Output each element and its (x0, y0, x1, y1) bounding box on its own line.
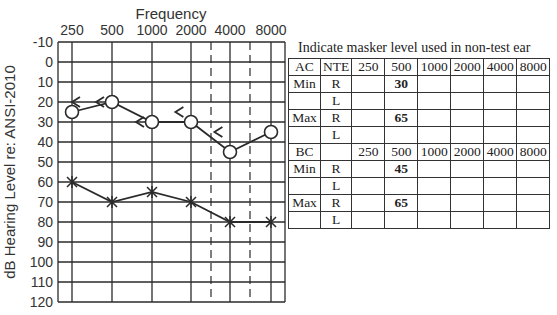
series-line (72, 102, 271, 152)
table-cell[interactable] (517, 76, 550, 93)
table-cell[interactable] (418, 195, 451, 212)
table-cell: L (321, 127, 352, 144)
circle-marker (265, 126, 278, 139)
table-header-cell: AC (289, 59, 321, 76)
table-cell[interactable] (418, 110, 451, 127)
table-cell (289, 212, 321, 229)
table-cell: L (321, 178, 352, 195)
bc-table-row: MinR45 (289, 161, 550, 178)
table-cell[interactable]: 30 (385, 76, 418, 93)
table-cell[interactable] (484, 212, 517, 229)
table-header-cell: 8000 (517, 144, 550, 161)
table-cell[interactable] (484, 195, 517, 212)
table-cell[interactable] (418, 212, 451, 229)
x-tick-label: 2000 (175, 22, 206, 38)
table-cell[interactable] (517, 127, 550, 144)
table-header-cell: 500 (385, 59, 418, 76)
table-cell: L (321, 93, 352, 110)
table-cell[interactable] (517, 178, 550, 195)
table-cell[interactable] (517, 110, 550, 127)
table-cell[interactable] (484, 161, 517, 178)
table-header-cell (321, 144, 352, 161)
table-cell[interactable] (484, 178, 517, 195)
table-cell[interactable] (352, 178, 385, 195)
table-cell[interactable] (385, 178, 418, 195)
bc-table-row: MaxR65 (289, 195, 550, 212)
table-cell[interactable] (484, 127, 517, 144)
ac-header-row: ACNTE2505001000200040008000 (289, 59, 550, 76)
table-cell[interactable] (451, 195, 484, 212)
table-cell[interactable] (451, 76, 484, 93)
audiogram-chart: -100102030405060708090100110120250500100… (0, 0, 290, 315)
x-tick-label: 1000 (136, 22, 167, 38)
table-cell: R (321, 161, 352, 178)
ac-table-row: MaxR65 (289, 110, 550, 127)
table-cell[interactable] (385, 93, 418, 110)
table-header-cell: 250 (352, 59, 385, 76)
table-cell[interactable] (385, 212, 418, 229)
y-tick-label: 30 (37, 114, 53, 130)
table-cell[interactable] (385, 127, 418, 144)
x-tick-label: 250 (60, 22, 84, 38)
table-header-cell: 500 (385, 144, 418, 161)
bc-unmasked-right-icon (175, 107, 183, 117)
x-tick-label: 8000 (255, 22, 286, 38)
y-tick-label: -10 (33, 34, 53, 50)
circle-marker (106, 96, 119, 109)
table-cell[interactable] (352, 127, 385, 144)
y-tick-label: 60 (37, 174, 53, 190)
circle-marker (146, 116, 159, 129)
y-tick-label: 70 (37, 194, 53, 210)
ac-table-row: MinR30 (289, 76, 550, 93)
x-axis-title: Frequency (136, 5, 207, 22)
table-cell[interactable] (352, 212, 385, 229)
ac-table-row: L (289, 93, 550, 110)
masking-table-panel: Indicate masker level used in non-test e… (288, 40, 550, 229)
table-cell[interactable] (451, 178, 484, 195)
y-tick-label: 100 (30, 254, 54, 270)
table-cell: R (321, 76, 352, 93)
circle-marker (66, 106, 79, 119)
y-tick-label: 20 (37, 94, 53, 110)
table-cell[interactable] (418, 178, 451, 195)
table-cell[interactable] (451, 161, 484, 178)
table-cell[interactable] (451, 93, 484, 110)
table-cell[interactable] (451, 127, 484, 144)
table-cell[interactable] (352, 93, 385, 110)
table-cell: R (321, 195, 352, 212)
table-cell (289, 93, 321, 110)
table-cell[interactable] (517, 212, 550, 229)
table-cell[interactable] (451, 110, 484, 127)
ac-table-row: L (289, 127, 550, 144)
table-cell[interactable]: 65 (385, 110, 418, 127)
bc-unmasked-right-icon (214, 127, 222, 137)
table-cell: Min (289, 161, 321, 178)
x-tick-label: 500 (100, 22, 124, 38)
table-cell[interactable] (517, 161, 550, 178)
table-cell[interactable] (418, 127, 451, 144)
table-cell: R (321, 110, 352, 127)
table-cell[interactable] (352, 110, 385, 127)
table-cell[interactable] (418, 161, 451, 178)
table-header-cell: 4000 (484, 144, 517, 161)
table-cell[interactable] (484, 76, 517, 93)
table-cell[interactable]: 45 (385, 161, 418, 178)
table-cell: L (321, 212, 352, 229)
table-cell[interactable] (517, 93, 550, 110)
table-cell[interactable] (352, 76, 385, 93)
y-tick-label: 80 (37, 214, 53, 230)
y-tick-label: 50 (37, 154, 53, 170)
table-cell[interactable] (517, 195, 550, 212)
bc-table-row: L (289, 212, 550, 229)
bc-header-row: BC2505001000200040008000 (289, 144, 550, 161)
table-cell[interactable] (418, 93, 451, 110)
table-cell[interactable] (352, 161, 385, 178)
table-cell[interactable]: 65 (385, 195, 418, 212)
masking-table: ACNTE2505001000200040008000MinR30LMaxR65… (288, 58, 550, 229)
table-cell[interactable] (418, 76, 451, 93)
table-cell[interactable] (451, 212, 484, 229)
table-cell[interactable] (352, 195, 385, 212)
table-header-cell: 2000 (451, 59, 484, 76)
table-cell[interactable] (484, 93, 517, 110)
table-cell[interactable] (484, 110, 517, 127)
